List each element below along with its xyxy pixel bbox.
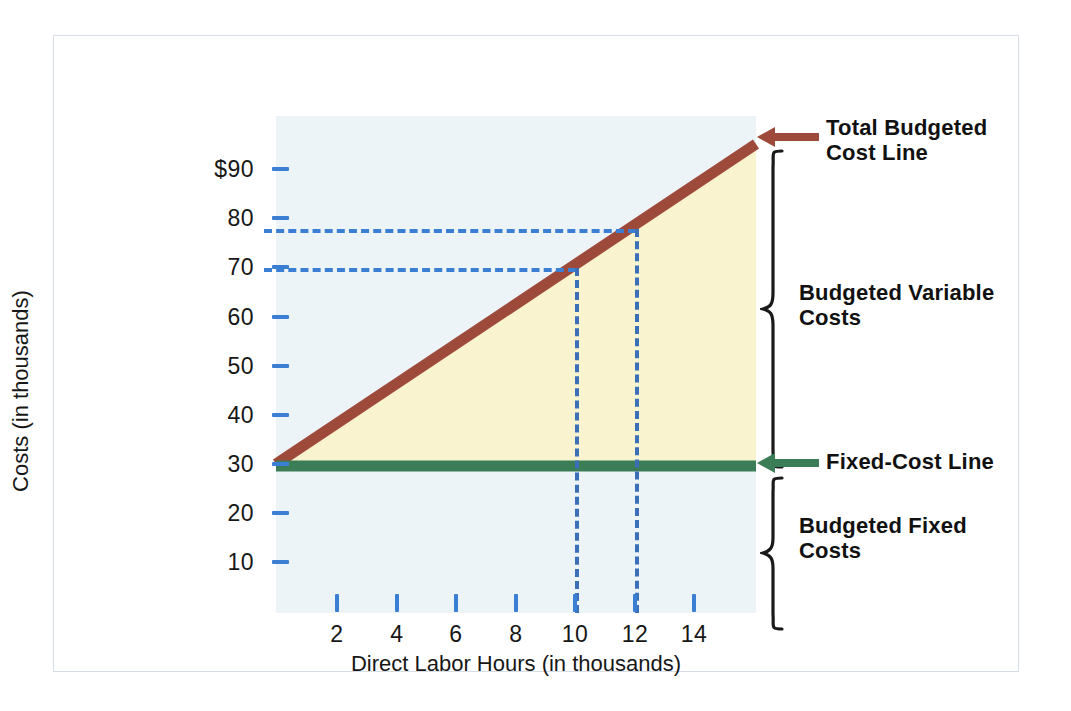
annotation-variable-costs-2: Costs (799, 306, 994, 331)
x-tick-label-6: 6 (426, 621, 486, 648)
y-tick-label-60: 60 (164, 304, 254, 331)
plot-svg (276, 116, 756, 613)
x-tick-12 (633, 594, 637, 612)
y-tick-10 (272, 560, 289, 564)
total-cost-line-arrow-icon (757, 124, 819, 150)
fixed-costs-bracket (760, 476, 790, 631)
x-axis-title: Direct Labor Hours (in thousands) (276, 651, 756, 677)
x-tick-4 (395, 594, 399, 612)
x-tick-14 (692, 594, 696, 612)
guide-line-hours-10 (575, 268, 579, 613)
y-tick-label-80: 80 (164, 205, 254, 232)
y-tick-label-20: 20 (164, 500, 254, 527)
y-tick-90 (272, 167, 289, 171)
x-tick-label-12: 12 (605, 621, 665, 648)
annotation-budgeted-fixed-costs: Budgeted Fixed Costs (799, 514, 967, 564)
y-tick-label-50: 50 (164, 353, 254, 380)
annotation-fixed-cost-line: Fixed-Cost Line (826, 450, 994, 475)
y-tick-label-70: 70 (164, 254, 254, 281)
guide-line-80 (264, 229, 636, 233)
guide-line-hours-12 (635, 229, 639, 613)
x-tick-6 (454, 594, 458, 612)
plot-area (276, 116, 756, 613)
annotation-total-cost-line-2: Cost Line (826, 141, 987, 166)
annotation-total-budgeted-cost-line: Total Budgeted Cost Line (826, 116, 987, 166)
y-tick-30 (272, 462, 289, 466)
variable-costs-bracket (760, 149, 790, 469)
annotation-fixed-costs-2: Costs (799, 539, 967, 564)
x-tick-label-2: 2 (307, 621, 367, 648)
x-tick-label-4: 4 (367, 621, 427, 648)
y-tick-40 (272, 413, 289, 417)
y-tick-label-40: 40 (164, 402, 254, 429)
x-tick-2 (335, 594, 339, 612)
y-tick-80 (272, 216, 289, 220)
y-axis-title: Costs (in thousands) (8, 241, 34, 541)
annotation-budgeted-variable-costs: Budgeted Variable Costs (799, 281, 994, 331)
y-tick-50 (272, 364, 289, 368)
annotation-fixed-costs-1: Budgeted Fixed (799, 514, 967, 539)
y-tick-20 (272, 511, 289, 515)
guide-line-70 (264, 268, 576, 272)
y-tick-60 (272, 315, 289, 319)
y-tick-70 (272, 265, 289, 269)
annotation-variable-costs-1: Budgeted Variable (799, 281, 994, 306)
fixed-cost-line-arrow-icon (757, 450, 819, 476)
x-tick-label-14: 14 (664, 621, 724, 648)
y-tick-label-90: $90 (164, 156, 254, 183)
x-tick-8 (514, 594, 518, 612)
x-tick-label-10: 10 (545, 621, 605, 648)
x-tick-label-8: 8 (486, 621, 546, 648)
y-tick-label-10: 10 (164, 549, 254, 576)
annotation-fixed-cost-line-text: Fixed-Cost Line (826, 450, 994, 475)
y-tick-label-30: 30 (164, 451, 254, 478)
figure-frame: $90 80 70 60 50 40 30 20 10 Costs (in th… (53, 35, 1019, 672)
x-tick-10 (573, 594, 577, 612)
annotation-total-cost-line-1: Total Budgeted (826, 116, 987, 141)
